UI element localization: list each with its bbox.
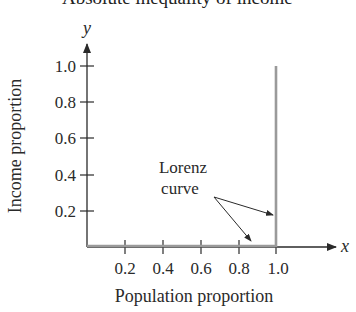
x-tick-label: 0.4 xyxy=(152,259,174,278)
annotation-label-line2: curve xyxy=(161,179,199,198)
x-axis-title: Population proportion xyxy=(115,286,274,306)
y-tick-label: 1.0 xyxy=(55,57,76,76)
x-tick-label: 0.6 xyxy=(190,259,211,278)
x-tick-label: 1.0 xyxy=(267,259,288,278)
y-tick-label: 0.8 xyxy=(55,93,76,112)
y-axis-title: Income proportion xyxy=(5,79,25,213)
x-axis-variable: x xyxy=(340,236,349,256)
y-tick-label: 0.6 xyxy=(55,129,76,148)
y-tick-label: 0.2 xyxy=(55,202,76,221)
x-tick-label: 0.2 xyxy=(114,259,135,278)
chart-title: Absolute inequality of income xyxy=(62,0,293,9)
lorenz-chart: Absolute inequality of income xyxy=(0,0,356,312)
annotation-label-line1: Lorenz xyxy=(159,158,208,177)
y-tick-label: 0.4 xyxy=(55,166,77,185)
y-axis-variable: y xyxy=(81,18,91,38)
annotation-arrow-vertical xyxy=(214,197,273,215)
annotation-arrow-horizontal xyxy=(214,197,251,241)
x-tick-label: 0.8 xyxy=(228,259,249,278)
chart-plot: 1.0 0.8 0.6 0.4 0.2 0.2 0.4 0.6 0.8 1.0 … xyxy=(0,0,356,312)
lorenz-curve xyxy=(87,66,276,246)
